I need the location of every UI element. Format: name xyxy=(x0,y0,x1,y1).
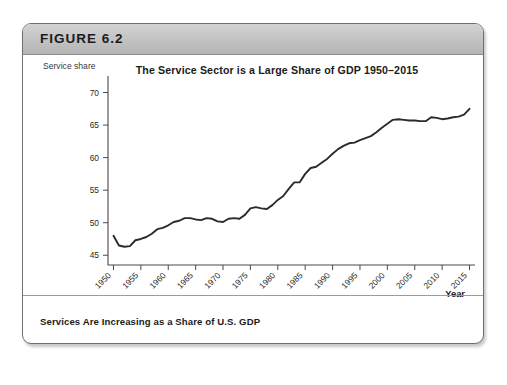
x-tick-label: 2010 xyxy=(421,270,441,290)
x-tick-label: 1995 xyxy=(339,270,359,290)
x-tick-label: 1990 xyxy=(312,270,332,290)
data-series-line xyxy=(113,109,469,247)
caption-divider xyxy=(23,295,483,296)
x-tick-label: 1970 xyxy=(202,270,222,290)
x-axis-title: Year xyxy=(445,288,465,299)
y-tick-label: 70 xyxy=(90,88,100,98)
x-tick-label: 1960 xyxy=(147,270,167,290)
x-tick-label: 1985 xyxy=(284,270,304,290)
x-tick-label: 2000 xyxy=(367,270,387,290)
y-tick-label: 55 xyxy=(90,185,100,195)
line-chart: 4550556065701950195519601965197019751980… xyxy=(23,55,485,307)
y-tick-label: 60 xyxy=(90,153,100,163)
y-tick-label: 65 xyxy=(90,120,100,130)
x-tick-label: 1955 xyxy=(120,270,140,290)
chart-plot-region: Service share The Service Sector is a La… xyxy=(23,55,483,307)
figure-card: FIGURE 6.2 Service share The Service Sec… xyxy=(22,23,484,344)
x-tick-label: 1980 xyxy=(257,270,277,290)
figure-header-bar: FIGURE 6.2 xyxy=(23,24,483,55)
y-tick-label: 50 xyxy=(90,218,100,228)
x-tick-label: 2005 xyxy=(394,270,414,290)
x-tick-label: 1975 xyxy=(230,270,250,290)
y-tick-label: 45 xyxy=(90,250,100,260)
chart-title: The Service Sector is a Large Share of G… xyxy=(23,64,483,76)
chart-axes xyxy=(108,76,475,265)
figure-caption: Services Are Increasing as a Share of U.… xyxy=(40,316,260,327)
x-tick-label: 1950 xyxy=(93,270,113,290)
figure-number-label: FIGURE 6.2 xyxy=(40,31,124,46)
x-tick-label: 1965 xyxy=(175,270,195,290)
